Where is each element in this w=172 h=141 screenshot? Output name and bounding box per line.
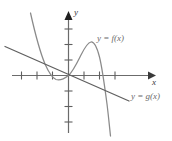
graph-canvas	[0, 0, 172, 141]
curve-label-g: y = g(x)	[131, 92, 160, 101]
y-axis-label: y	[74, 8, 78, 17]
curve-g	[5, 47, 129, 102]
function-graph-figure: y = f(x) y = g(x) x y	[0, 0, 172, 141]
x-axis-label: x	[152, 78, 156, 87]
curve-f	[31, 13, 111, 136]
curve-label-f: y = f(x)	[97, 34, 124, 43]
